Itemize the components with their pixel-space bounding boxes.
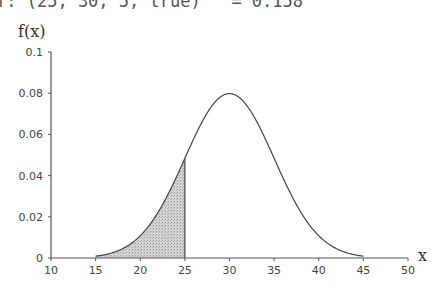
x-tick-label: 45 (356, 264, 370, 277)
x-tick-label: 15 (89, 264, 103, 277)
x-axis-ticks: 101520253035404550 (44, 258, 415, 277)
x-tick-label: 50 (401, 264, 415, 277)
density-curve (96, 94, 364, 257)
shaded-area (96, 158, 185, 258)
normal-distribution-chart: 00.020.040.060.080.1 101520253035404550 (0, 0, 444, 294)
x-tick-label: 25 (178, 264, 192, 277)
axes (51, 52, 408, 258)
y-tick-label: 0.1 (26, 46, 44, 59)
x-tick-label: 40 (312, 264, 326, 277)
y-axis-ticks: 00.020.040.060.080.1 (19, 46, 52, 265)
y-tick-label: 0.02 (19, 211, 44, 224)
y-tick-label: 0.06 (19, 128, 44, 141)
x-tick-label: 10 (44, 264, 58, 277)
y-tick-label: 0 (36, 252, 43, 265)
x-tick-label: 30 (223, 264, 237, 277)
y-tick-label: 0.04 (19, 170, 44, 183)
x-tick-label: 20 (133, 264, 147, 277)
y-tick-label: 0.08 (19, 87, 44, 100)
x-tick-label: 35 (267, 264, 281, 277)
